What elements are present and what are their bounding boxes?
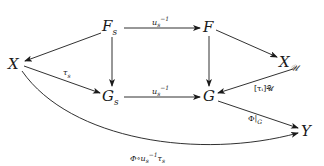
label-x-to-y-sup: −1 (149, 151, 158, 158)
node-g-base: G (203, 87, 215, 105)
label-xu-to-g: [τᵢ]𝒰 (254, 84, 273, 93)
label-x-to-gs: τs (63, 68, 71, 80)
node-x-u: X𝒰 (279, 55, 298, 76)
arrow-f-to-xu (216, 30, 277, 57)
label-x-to-y-sub: s (146, 157, 149, 164)
label-gs-to-g-sup: −1 (160, 84, 169, 91)
node-x-u-sub: 𝒰 (290, 63, 298, 73)
node-f-base: F (203, 18, 213, 36)
node-g: G (203, 89, 215, 104)
node-y-base: Y (301, 122, 311, 140)
node-g-s-sub: s (114, 97, 119, 107)
label-x-to-y-pre: Φ∘u (130, 154, 146, 163)
label-g-to-y-sub: G (257, 118, 262, 125)
label-fs-to-f-sup: −1 (160, 15, 169, 22)
label-g-to-y-text: Φ| (248, 114, 257, 123)
label-fs-to-f: us−1 (152, 14, 169, 29)
label-x-to-y-post-sub: s (162, 157, 165, 164)
node-y: Y (301, 124, 311, 139)
label-gs-to-g: us−1 (152, 83, 169, 98)
arrow-fs-to-x (25, 33, 101, 61)
label-x-to-gs-sub: s (67, 72, 70, 79)
label-gs-to-g-sub: s (157, 90, 160, 97)
node-f-s-base: F (102, 17, 112, 35)
node-g-s-base: G (102, 87, 114, 105)
label-xu-to-g-text: [τᵢ]𝒰 (254, 84, 273, 93)
node-f-s-sub: s (112, 27, 117, 37)
label-g-to-y: Φ|G (248, 114, 262, 126)
node-x: X (8, 57, 19, 72)
node-f: F (203, 20, 213, 35)
arrow-x-to-gs (24, 66, 100, 93)
label-fs-to-f-sub: s (157, 21, 160, 28)
node-x-u-base: X (279, 53, 290, 71)
node-g-s: Gs (102, 89, 119, 110)
label-x-to-y: Φ∘us−1τs (130, 150, 165, 165)
node-x-base: X (8, 55, 19, 73)
node-f-s: Fs (102, 19, 117, 40)
